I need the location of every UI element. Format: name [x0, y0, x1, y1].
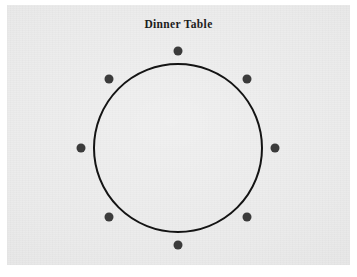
seat-dot — [174, 241, 183, 250]
figure-title: Dinner Table — [0, 18, 357, 30]
seat-dots-group — [77, 47, 280, 250]
seat-dot — [243, 213, 252, 222]
seat-dot — [174, 47, 183, 56]
seat-dot — [243, 75, 252, 84]
seat-dot — [105, 213, 114, 222]
table-circle — [94, 64, 262, 232]
seat-dot — [77, 144, 86, 153]
seat-dot — [271, 144, 280, 153]
table-circle-group — [94, 64, 262, 232]
figure-canvas: Dinner Table — [0, 0, 357, 277]
seat-dot — [105, 75, 114, 84]
dinner-table-diagram — [0, 0, 357, 277]
